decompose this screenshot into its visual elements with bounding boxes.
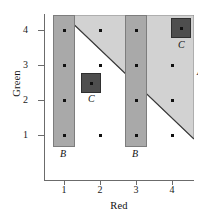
y-tick-1 [38,135,44,136]
y-tick-label-1: 1 [8,130,28,140]
data-point [180,27,183,30]
y-tick-label-4: 4 [8,25,28,35]
data-point [135,29,138,32]
data-point [99,64,102,67]
x-axis-title: Red [44,200,194,211]
region-c-label-mid: C [88,94,95,104]
data-point [63,64,66,67]
data-point [135,64,138,67]
data-point [90,82,93,85]
plot-area: B B C C A [53,15,194,154]
figure-canvas: 4 3 2 1 Green 1 2 3 4 Red [0,0,198,220]
data-point [135,134,138,137]
region-a-label: A [197,67,198,77]
region-b-label-right: B [132,149,138,159]
data-point [63,99,66,102]
region-b-label-left: B [60,149,66,159]
region-c-label-top: C [178,40,185,50]
x-tick-label-4: 4 [162,185,182,195]
region-b-bar-red3 [125,15,147,147]
data-point [99,134,102,137]
data-point [171,64,174,67]
x-tick-label-2: 2 [90,185,110,195]
y-axis-title: Green [11,54,22,114]
data-point [63,134,66,137]
data-point [171,99,174,102]
y-axis-line [44,14,45,180]
data-point [63,29,66,32]
data-point [171,134,174,137]
data-point [99,29,102,32]
region-b-bar-red1 [53,15,75,147]
data-point [135,99,138,102]
y-tick-2 [38,100,44,101]
x-tick-label-3: 3 [126,185,146,195]
y-tick-3 [38,65,44,66]
x-tick-label-1: 1 [54,185,74,195]
y-tick-4 [38,30,44,31]
